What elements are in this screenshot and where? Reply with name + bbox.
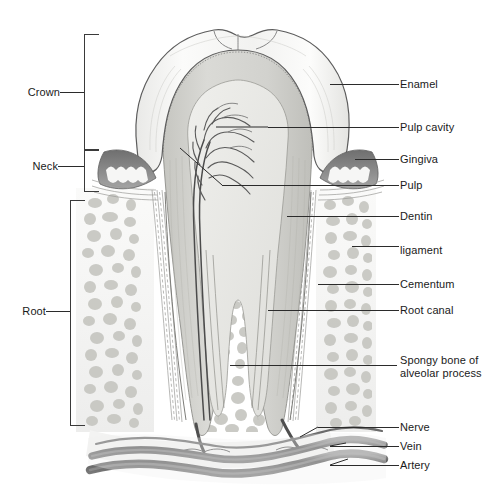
label-vein: Vein	[400, 440, 422, 453]
label-neck: Neck	[10, 160, 58, 173]
label-pulp: Pulp	[400, 179, 422, 192]
label-gingiva: Gingiva	[400, 153, 438, 166]
leader-spongy-bone	[230, 365, 397, 366]
bracket-neck	[84, 150, 99, 192]
leader-root	[46, 311, 70, 312]
leader-nerve	[318, 427, 399, 428]
leader-pulp-cavity	[268, 127, 399, 128]
bracket-crown	[84, 34, 99, 150]
leader-artery	[330, 465, 399, 466]
leader-vein	[330, 446, 399, 447]
label-root-canal: Root canal	[400, 304, 454, 317]
leader-dentin	[287, 216, 399, 217]
label-pulp-cavity: Pulp cavity	[400, 121, 454, 134]
leader-neck	[58, 166, 84, 167]
leader-enamel	[330, 84, 399, 85]
label-nerve: Nerve	[400, 421, 430, 434]
leader-root-canal	[268, 310, 399, 311]
label-artery: Artery	[400, 459, 430, 472]
label-enamel: Enamel	[400, 78, 438, 91]
tooth-anatomy-figure: Crown Neck Root Enamel Pulp cavity Gingi…	[0, 0, 504, 493]
label-ligament: ligament	[400, 244, 442, 257]
leader-gingiva	[355, 159, 399, 160]
label-crown: Crown	[10, 86, 60, 99]
leader-pulp	[222, 185, 399, 186]
label-root: Root	[0, 305, 46, 318]
label-cementum: Cementum	[400, 278, 455, 291]
leader-ligament	[352, 246, 399, 247]
bracket-root	[70, 200, 85, 426]
basal-vessels	[88, 427, 386, 484]
label-spongy-bone: Spongy bone of alveolar process	[400, 354, 482, 379]
leader-crown	[60, 92, 84, 93]
label-dentin: Dentin	[400, 210, 432, 223]
leader-cementum	[318, 284, 399, 285]
